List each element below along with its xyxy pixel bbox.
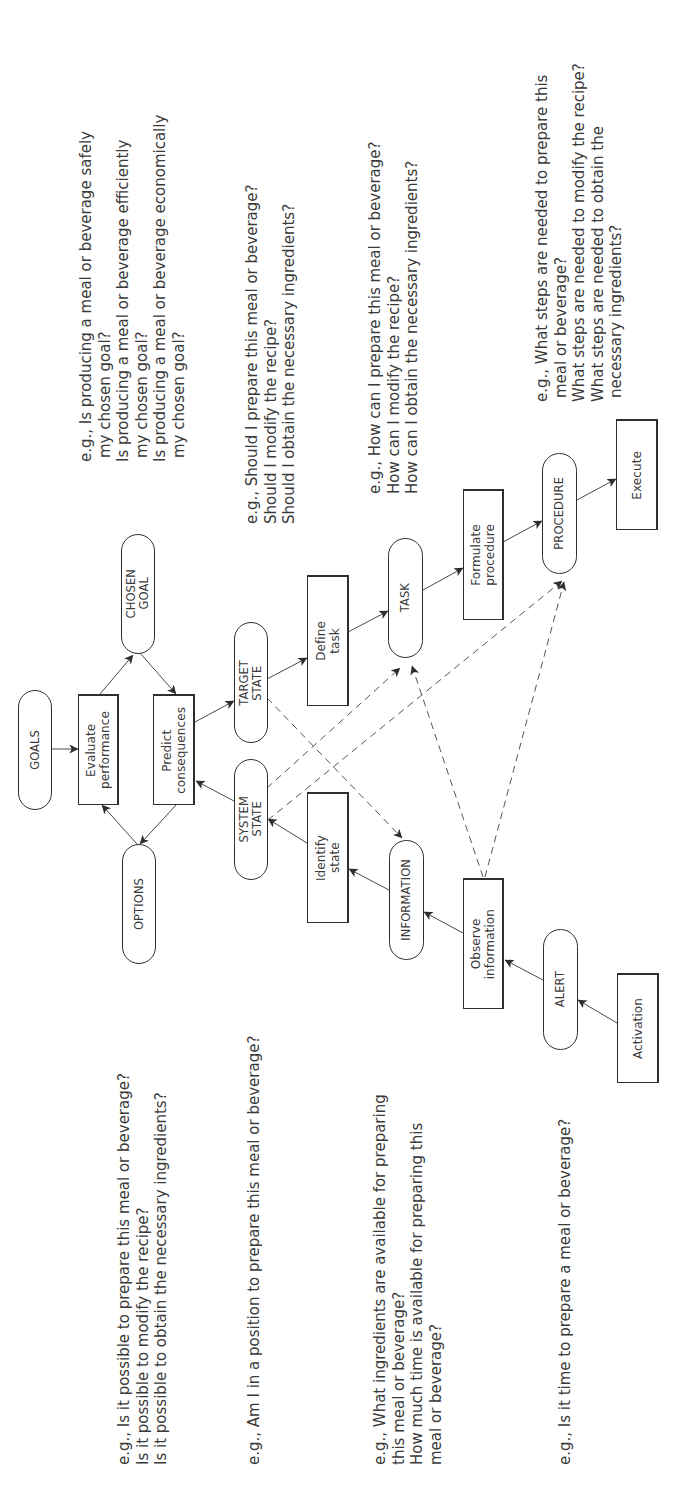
node-label: Formulate procedure [469,524,497,586]
node-label: Observe information [469,909,497,979]
node-options: OPTIONS [122,844,156,964]
question-line: meal or beverage? [427,1094,446,1465]
question-line: How can I obtain the necessary ingredien… [403,142,422,495]
question-line: What steps are needed to obtain the [589,63,608,402]
questions-chosen-goal: e.g., Is producing a meal or beverage sa… [77,115,188,462]
question-line: my chosen goal? [170,115,189,462]
edge-information-identify-state [349,869,389,890]
edge-chosen-goal-predict [140,653,176,694]
questions-target-state: e.g., Should I prepare this meal or beve… [243,185,299,524]
node-chosen-goal: CHOSEN GOAL [121,534,155,654]
node-evaluate-performance: Evaluate performance [78,694,119,805]
node-observe-information: Observe information [463,878,504,1009]
edge-activation-alert [578,1000,617,1023]
question-line: e.g., Is producing a meal or beverage sa… [77,115,96,462]
node-execute: Execute [616,419,658,530]
node-alert: ALERT [543,929,578,1050]
node-label: TARGET STATE [238,660,264,706]
node-label: TASK [399,583,412,612]
questions-task: e.g., How can I prepare this meal or bev… [366,142,422,495]
node-label: OPTIONS [133,878,146,930]
node-define-task: Define task [307,575,349,706]
question-line: my chosen goal? [96,115,115,462]
edge-predict-options [140,804,177,844]
node-label: Identify state [314,835,342,881]
question-line: my chosen goal? [133,115,152,462]
question-line: What steps are needed to modify the reci… [570,63,589,402]
edge-options-evaluate [102,805,137,844]
question-line: Should I obtain the necessary ingredient… [280,185,299,524]
node-label: Execute [630,451,644,500]
node-target-state: TARGET STATE [234,622,268,743]
node-task: TASK [388,538,423,658]
node-system-state: SYSTEM STATE [234,759,268,880]
question-line: e.g., Is it possible to prepare this mea… [115,1073,134,1465]
edge-define-task-task [348,611,388,632]
node-label: INFORMATION [400,859,413,941]
questions-procedure: e.g., What steps are needed to prepare t… [533,63,626,402]
node-goals: GOALS [18,690,52,810]
question-line: Is producing a meal or beverage economic… [151,115,170,462]
edge-procedure-execute [577,479,616,500]
edge-target-state-define-task [267,658,307,679]
question-line: this meal or beverage? [390,1094,409,1465]
question-line: e.g., What ingredients are available for… [371,1094,390,1465]
decision-ladder-diagram: GOALS Evaluate performance CHOSEN GOAL O… [0,0,685,1497]
questions-system-state: e.g., Am I in a position to prepare this… [245,1036,264,1465]
node-label: ALERT [554,971,567,1007]
question-line: Is it possible to modify the recipe? [134,1073,153,1465]
question-line: Should I modify the recipe? [262,185,281,524]
edge-observe-information [424,912,463,933]
node-label: PROCEDURE [553,477,566,550]
question-line: e.g., How can I prepare this meal or bev… [366,142,385,495]
node-predict-consequences: Predict consequences [153,694,195,805]
node-activation: Activation [617,973,659,1083]
edge-task-formulate [423,568,463,590]
question-line: e.g., Is it time to prepare a meal or be… [556,1119,575,1465]
node-label: SYSTEM STATE [238,796,264,842]
questions-information: e.g., What ingredients are available for… [371,1094,445,1465]
edge-dashed-observe-procedure [485,582,564,877]
edge-dashed-observe-task [412,666,483,877]
node-information: INFORMATION [389,840,424,960]
node-identify-state: Identify state [307,792,349,923]
node-procedure: PROCEDURE [542,453,577,574]
question-line: e.g., What steps are needed to prepare t… [533,63,552,402]
question-line: Is it possible to obtain the necessary i… [152,1073,171,1465]
node-formulate-procedure: Formulate procedure [463,489,504,620]
node-label: Predict consequences [160,707,188,794]
question-line: How much time is available for preparing… [408,1094,427,1465]
node-label: CHOSEN GOAL [125,569,151,619]
edge-predict-target-state [195,701,234,722]
questions-options: e.g., Is it possible to prepare this mea… [115,1073,171,1465]
node-label: Evaluate performance [84,711,112,789]
node-label: Define task [314,621,342,661]
edge-formulate-procedure [503,521,542,542]
questions-alert: e.g., Is it time to prepare a meal or be… [556,1119,575,1465]
edge-alert-observe [505,960,543,980]
node-label: Activation [631,998,645,1059]
question-line: meal or beverage? [552,63,571,402]
question-line: e.g., Should I prepare this meal or beve… [243,185,262,524]
question-line: How can I modify the recipe? [385,142,404,495]
node-label: GOALS [29,730,42,770]
question-line: e.g., Am I in a position to prepare this… [245,1036,264,1465]
question-line: Is producing a meal or beverage efficien… [114,115,133,462]
question-line: necessary ingredients? [607,63,626,402]
edge-system-state-predict [196,781,234,801]
edge-identify-state-system-state [268,819,307,843]
edge-evaluate-chosen-goal [100,655,133,694]
